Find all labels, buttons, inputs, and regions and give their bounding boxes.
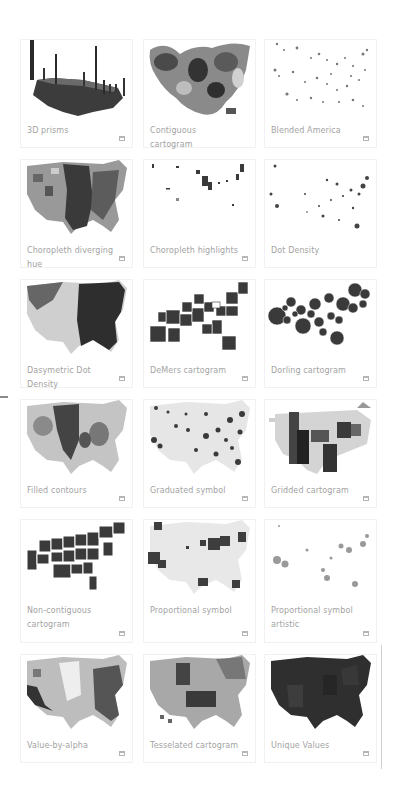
- gallery-card-choropleth-highlights[interactable]: Choropleth highlights: [143, 159, 256, 268]
- left-edge-marker: [0, 396, 8, 398]
- window-icon[interactable]: [242, 496, 248, 501]
- card-label: Blended America: [271, 124, 362, 138]
- 3d-prisms-thumbnail: [23, 40, 132, 118]
- gallery-card-gridded-cartogram[interactable]: Gridded cartogram: [264, 399, 377, 508]
- card-label: Value-by-alpha: [27, 739, 118, 753]
- card-label: Dot Density: [271, 244, 362, 258]
- card-label: Choropleth diverging hue: [27, 244, 118, 272]
- choropleth-diverging-hue-thumbnail: [23, 160, 132, 238]
- card-label: DeMers cartogram: [150, 364, 241, 378]
- gallery-card-dorling-cartogram[interactable]: Dorling cartogram: [264, 279, 377, 388]
- window-icon[interactable]: [363, 631, 369, 636]
- value-by-alpha-thumbnail: [23, 655, 132, 733]
- gallery-card-value-by-alpha[interactable]: Value-by-alpha: [20, 654, 133, 763]
- window-icon[interactable]: [242, 631, 248, 636]
- window-icon[interactable]: [119, 751, 125, 756]
- gallery-card-proportional-symbol-artistic[interactable]: Proportional symbol artistic: [264, 519, 377, 643]
- tesselated-cartogram-thumbnail: [146, 655, 255, 733]
- gridded-cartogram-thumbnail: [267, 400, 376, 478]
- gallery-card-graduated-symbol[interactable]: Graduated symbol: [143, 399, 256, 508]
- gallery-card-unique-values[interactable]: Unique Values: [264, 654, 377, 763]
- unique-values-thumbnail: [267, 655, 376, 733]
- gallery-card-filled-contours[interactable]: Filled contours: [20, 399, 133, 508]
- window-icon[interactable]: [119, 136, 125, 141]
- gallery-card-contiguous-cartogram[interactable]: Contiguous cartogram: [143, 39, 256, 148]
- gallery-card-tesselated-cartogram[interactable]: Tesselated cartogram: [143, 654, 256, 763]
- card-label: Tesselated cartogram: [150, 739, 241, 753]
- filled-contours-thumbnail: [23, 400, 132, 478]
- card-label: Unique Values: [271, 739, 362, 753]
- card-label: Proportional symbol artistic: [271, 604, 362, 632]
- gallery-card-dot-density[interactable]: Dot Density: [264, 159, 377, 268]
- window-icon[interactable]: [363, 496, 369, 501]
- gallery-card-choropleth-diverging-hue[interactable]: Choropleth diverging hue: [20, 159, 133, 268]
- dasymetric-dot-density-thumbnail: [23, 280, 132, 358]
- card-label: Non-contiguous cartogram: [27, 604, 118, 632]
- demers-cartogram-thumbnail: [146, 280, 255, 358]
- window-icon[interactable]: [363, 376, 369, 381]
- window-icon[interactable]: [119, 631, 125, 636]
- window-icon[interactable]: [242, 256, 248, 261]
- dot-density-thumbnail: [267, 160, 376, 238]
- dorling-cartogram-thumbnail: [267, 280, 376, 358]
- card-label: 3D prisms: [27, 124, 118, 138]
- non-contiguous-cartogram-thumbnail: [23, 520, 132, 598]
- gallery-card-demers-cartogram[interactable]: DeMers cartogram: [143, 279, 256, 388]
- window-icon[interactable]: [363, 136, 369, 141]
- card-label: Dorling cartogram: [271, 364, 362, 378]
- gallery-card-blended-america[interactable]: Blended America: [264, 39, 377, 148]
- gallery-card-non-contiguous-cartogram[interactable]: Non-contiguous cartogram: [20, 519, 133, 643]
- card-label: Choropleth highlights: [150, 244, 241, 258]
- proportional-symbol-thumbnail: [146, 520, 255, 598]
- card-label: Contiguous cartogram: [150, 124, 241, 152]
- card-label: Proportional symbol: [150, 604, 241, 618]
- window-icon[interactable]: [242, 376, 248, 381]
- window-icon[interactable]: [363, 751, 369, 756]
- card-label: Filled contours: [27, 484, 118, 498]
- window-icon[interactable]: [119, 496, 125, 501]
- gallery-card-proportional-symbol[interactable]: Proportional symbol: [143, 519, 256, 643]
- contiguous-cartogram-thumbnail: [146, 40, 255, 118]
- scrollbar-track[interactable]: [381, 645, 382, 769]
- proportional-symbol-artistic-thumbnail: [267, 520, 376, 598]
- map-style-gallery: 3D prisms Contiguous cartogram: [0, 0, 401, 796]
- graduated-symbol-thumbnail: [146, 400, 255, 478]
- card-label: Graduated symbol: [150, 484, 241, 498]
- choropleth-highlights-thumbnail: [146, 160, 255, 238]
- gallery-card-dasymetric-dot-density[interactable]: Dasymetric Dot Density: [20, 279, 133, 388]
- window-icon[interactable]: [242, 751, 248, 756]
- window-icon[interactable]: [119, 376, 125, 381]
- card-label: Dasymetric Dot Density: [27, 364, 118, 392]
- blended-america-thumbnail: [267, 40, 376, 118]
- window-icon[interactable]: [119, 256, 125, 261]
- gallery-card-3d-prisms[interactable]: 3D prisms: [20, 39, 133, 148]
- card-label: Gridded cartogram: [271, 484, 362, 498]
